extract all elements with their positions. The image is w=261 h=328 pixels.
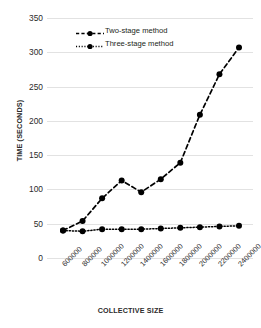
data-point <box>99 226 105 232</box>
data-point <box>119 226 125 232</box>
data-point <box>216 223 222 229</box>
y-tick-label: 150 <box>29 150 43 160</box>
data-point <box>158 226 164 232</box>
data-point <box>197 224 203 230</box>
series-layer <box>47 18 253 258</box>
data-point <box>138 226 144 232</box>
legend-marker-dashed <box>76 25 104 36</box>
data-point <box>80 218 86 224</box>
data-point <box>236 44 242 50</box>
plot-area: 050100150200250300350 600000800000100000… <box>47 18 253 258</box>
chart-legend: Two-stage method Three-stage method <box>76 24 208 50</box>
series-line-three-stage <box>63 226 239 231</box>
y-tick-label: 100 <box>29 184 43 194</box>
legend-label-two-stage: Two-stage method <box>105 26 167 35</box>
data-point <box>158 176 164 182</box>
legend-item-three-stage: Three-stage method <box>76 37 208 50</box>
y-tick-label: 350 <box>29 13 43 23</box>
x-axis-title: COLLECTIVE SIZE <box>0 306 261 315</box>
data-point <box>177 225 183 231</box>
data-point <box>80 228 86 234</box>
chart-container: TIME (SECONDS) 050100150200250300350 600… <box>0 0 261 328</box>
data-point <box>236 223 242 229</box>
data-point <box>216 71 222 77</box>
data-point <box>119 178 125 184</box>
data-point <box>60 228 66 234</box>
y-tick-label: 50 <box>34 219 43 229</box>
y-tick-label: 300 <box>29 47 43 57</box>
data-point <box>99 195 105 201</box>
legend-marker-dotted <box>76 38 104 49</box>
y-axis-title: TIME (SECONDS) <box>15 83 24 179</box>
data-point <box>138 189 144 195</box>
y-tick-label: 0 <box>38 253 43 263</box>
y-tick-label: 200 <box>29 116 43 126</box>
series-line-two-stage <box>63 47 239 230</box>
legend-item-two-stage: Two-stage method <box>76 24 208 37</box>
legend-label-three-stage: Three-stage method <box>105 39 173 48</box>
y-tick-label: 250 <box>29 82 43 92</box>
data-point <box>197 112 203 118</box>
data-point <box>177 160 183 166</box>
